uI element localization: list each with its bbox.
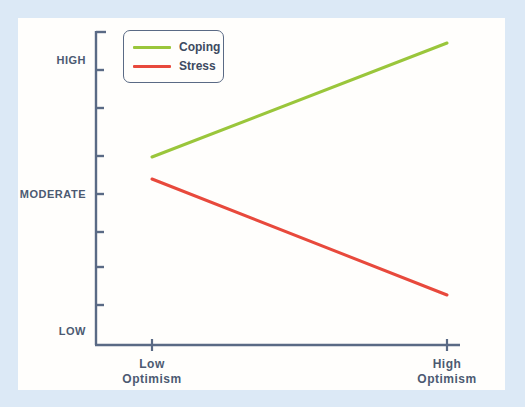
x-tick-label-high-line1: High bbox=[417, 357, 476, 372]
chart-legend: Coping Stress bbox=[123, 30, 224, 83]
x-tick-label-high-line2: Optimism bbox=[417, 372, 476, 387]
legend-item-coping: Coping bbox=[133, 40, 220, 54]
y-tick-label-low: LOW bbox=[38, 325, 86, 337]
x-tick-label-high-optimism: High Optimism bbox=[417, 357, 476, 387]
legend-swatch-stress bbox=[133, 65, 171, 68]
x-tick-label-low-line1: Low bbox=[122, 357, 181, 372]
series-line-stress bbox=[152, 179, 447, 295]
x-tick-label-low-optimism: Low Optimism bbox=[122, 357, 181, 387]
chart-screenshot: HIGH MODERATE LOW Low Optimism High Opti… bbox=[0, 0, 525, 407]
legend-item-stress: Stress bbox=[133, 59, 216, 73]
legend-swatch-coping bbox=[133, 46, 171, 49]
legend-label-stress: Stress bbox=[179, 59, 216, 73]
y-tick-label-moderate: MODERATE bbox=[14, 188, 86, 200]
y-axis-ticks bbox=[96, 32, 106, 305]
x-tick-label-low-line2: Optimism bbox=[122, 372, 181, 387]
legend-label-coping: Coping bbox=[179, 40, 220, 54]
y-tick-label-high: HIGH bbox=[28, 54, 86, 66]
